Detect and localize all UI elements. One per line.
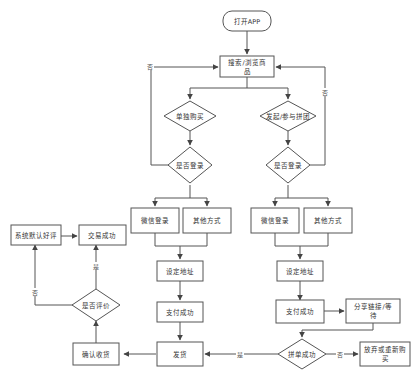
svg-text:其他方式: 其他方式 [193, 216, 221, 225]
node-review-check: 是否评价 [72, 289, 120, 321]
node-give-up: 放弃或重新购 买 [360, 342, 410, 366]
node-wechat-login-left: 微信登录 [131, 208, 179, 233]
edge-label-yes-group: 是 [237, 351, 243, 359]
edge-label-yes-review: 是 [93, 263, 99, 271]
node-wechat-login-right: 微信登录 [251, 208, 299, 233]
svg-text:分享链接/等: 分享链接/等 [354, 302, 391, 311]
edge-label-no-review: 否 [32, 289, 38, 297]
node-confirm-receipt: 确认收货 [73, 343, 119, 365]
edge-label-no-left-login: 否 [147, 63, 153, 71]
svg-text:其他方式: 其他方式 [314, 216, 342, 225]
node-group-success: 拼单成功 [278, 339, 326, 369]
node-ship: 发货 [157, 342, 203, 366]
svg-text:支付成功: 支付成功 [286, 307, 314, 316]
svg-text:待: 待 [370, 311, 377, 320]
svg-text:打开APP: 打开APP [234, 17, 260, 26]
edge-label-no-group: 否 [337, 351, 343, 359]
edge-label-no-right-login: 否 [322, 89, 328, 97]
svg-text:交易成功: 交易成功 [88, 231, 116, 240]
node-login-check-right: 是否登录 [266, 147, 310, 183]
svg-text:品: 品 [244, 68, 251, 76]
svg-text:设定地址: 设定地址 [286, 267, 314, 276]
node-other-login-left: 其他方式 [183, 208, 231, 233]
node-pay-right: 支付成功 [276, 300, 324, 323]
svg-text:是否评价: 是否评价 [82, 302, 110, 310]
svg-text:设定地址: 设定地址 [166, 267, 194, 276]
svg-text:微信登录: 微信登录 [141, 216, 169, 225]
node-start: 打开APP [223, 11, 271, 31]
svg-text:发起/参与拼团: 发起/参与拼团 [266, 112, 310, 121]
svg-text:是否登录: 是否登录 [274, 161, 302, 170]
svg-text:搜索/浏览商: 搜索/浏览商 [228, 58, 265, 67]
svg-text:确认收货: 确认收货 [82, 350, 110, 359]
svg-text:支付成功: 支付成功 [166, 308, 194, 317]
node-login-check-left: 是否登录 [168, 147, 212, 183]
svg-text:放弃或重新购: 放弃或重新购 [364, 345, 406, 354]
node-pay-left: 支付成功 [157, 302, 203, 322]
node-group-buy: 发起/参与拼团 [260, 101, 316, 131]
svg-text:拼单成功: 拼单成功 [288, 350, 316, 359]
svg-text:微信登录: 微信登录 [261, 216, 289, 225]
svg-text:是否登录: 是否登录 [176, 161, 204, 170]
node-default-review: 系统默认好评 [11, 225, 61, 245]
node-address-left: 设定地址 [157, 261, 203, 281]
node-other-login-right: 其他方式 [304, 208, 352, 233]
svg-text:单独购买: 单独购买 [176, 112, 204, 121]
node-share-link: 分享链接/等 待 [346, 299, 400, 323]
svg-text:买: 买 [382, 355, 389, 363]
node-address-right: 设定地址 [277, 261, 323, 281]
flowchart: 否 否 是 否 是 否 打开APP 搜索/浏览商 品 单独购买 发起/参与拼团 … [0, 0, 416, 380]
node-deal-done: 交易成功 [79, 225, 126, 245]
svg-text:发货: 发货 [173, 350, 187, 359]
node-browse: 搜索/浏览商 品 [220, 56, 274, 77]
node-solo-buy: 单独购买 [164, 101, 216, 131]
svg-text:系统默认好评: 系统默认好评 [15, 231, 57, 240]
